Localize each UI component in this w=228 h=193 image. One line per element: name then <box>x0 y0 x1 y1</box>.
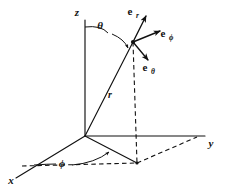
axis-label-z: z <box>74 6 80 18</box>
phi-arc-left <box>34 164 56 165</box>
dashed-y-parallel <box>137 137 197 163</box>
projection-lines <box>85 42 137 163</box>
e-theta-base: e <box>143 61 148 73</box>
phi-arc-pointer <box>72 152 109 165</box>
radius-label: r <box>108 89 112 100</box>
unit-vector-arrows <box>133 16 160 60</box>
e-r-base: e <box>128 5 133 17</box>
diagram-canvas: z y x θ ϕ r e r e ϕ e θ <box>0 0 228 193</box>
spherical-coordinates-figure: z y x θ ϕ r e r e ϕ e θ <box>0 0 228 193</box>
angle-label-phi: ϕ <box>59 157 66 169</box>
e-r-subscript: r <box>136 11 139 20</box>
e-phi-base: e <box>161 27 166 39</box>
unit-vector-label-e-r: e r <box>128 5 139 20</box>
axis-label-y: y <box>207 137 214 149</box>
projection-point-marker <box>135 161 138 164</box>
ground-plane-dashed <box>22 137 197 166</box>
vertical-drop-dashed <box>133 42 137 163</box>
unit-vector-label-e-phi: e ϕ <box>161 27 174 42</box>
e-phi-subscript: ϕ <box>169 33 174 42</box>
ground-projection-line <box>85 136 137 163</box>
e-theta-subscript: θ <box>151 67 155 76</box>
theta-angle-indicator <box>85 27 128 48</box>
axis-label-x: x <box>7 174 14 186</box>
axis-x-line <box>16 136 85 178</box>
axis-x <box>16 136 85 178</box>
e-theta-arrow <box>133 42 148 60</box>
angle-label-theta: θ <box>97 19 103 31</box>
theta-arc-pointer <box>112 34 128 48</box>
phi-angle-indicator <box>34 152 109 165</box>
unit-vector-label-e-theta: e θ <box>143 61 155 76</box>
